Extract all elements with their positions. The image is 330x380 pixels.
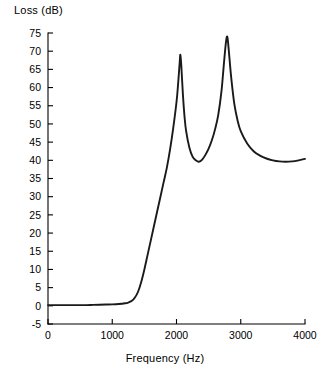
x-tick-label: 0 [45,329,51,341]
plot-area: -5051015202530354045505560657075 0100020… [0,0,330,380]
y-tick-label: 10 [29,263,41,275]
y-axis-tick-labels: -5051015202530354045505560657075 [29,27,41,330]
data-series-line [48,36,305,305]
y-tick-label: 65 [29,63,41,75]
x-tick-label: 2000 [165,329,189,341]
x-axis-tick-marks [48,319,305,324]
y-tick-label: 20 [29,227,41,239]
y-tick-label: 40 [29,154,41,166]
x-tick-label: 3000 [229,329,253,341]
y-tick-label: 70 [29,45,41,57]
y-axis-tick-marks [48,33,53,324]
y-tick-label: 50 [29,118,41,130]
y-tick-label: -5 [32,318,41,330]
y-tick-label: 60 [29,81,41,93]
loss-frequency-chart: Loss (dB) Frequency (Hz) -50510152025303… [0,0,330,380]
y-tick-label: 5 [35,281,41,293]
x-tick-label: 4000 [293,329,317,341]
y-tick-label: 75 [29,27,41,39]
y-tick-label: 35 [29,172,41,184]
y-tick-label: 45 [29,136,41,148]
x-axis-tick-labels: 01000200030004000 [45,329,317,341]
y-tick-label: 30 [29,190,41,202]
y-tick-label: 55 [29,99,41,111]
x-tick-label: 1000 [101,329,125,341]
y-tick-label: 15 [29,245,41,257]
y-tick-label: 25 [29,209,41,221]
y-tick-label: 0 [35,300,41,312]
